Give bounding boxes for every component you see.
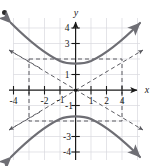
y-tick-label--3: -3 <box>63 132 71 142</box>
y-tick-label-1: 1 <box>65 70 70 80</box>
x-tick-label--1: -1 <box>57 95 65 105</box>
figure-container: -4 -2 -1 1 2 4 4 3 1 -1 -3 -4 x y <box>0 0 156 166</box>
x-axis-label: x <box>144 84 150 95</box>
x-tick-label-2: 2 <box>104 96 109 106</box>
y-tick-label-4: 4 <box>65 23 70 33</box>
x-tick-label-4: 4 <box>120 96 125 106</box>
x-tick-label-1: 1 <box>89 96 94 106</box>
hyperbola-graph: -4 -2 -1 1 2 4 4 3 1 -1 -3 -4 x y <box>0 0 156 166</box>
y-tick-label--1: -1 <box>65 101 73 111</box>
y-tick-label--4: -4 <box>63 147 71 157</box>
origin-point <box>74 88 78 92</box>
y-tick-label-3: 3 <box>65 39 70 49</box>
y-axis-label: y <box>73 7 79 18</box>
x-tick-label--4: -4 <box>10 96 18 106</box>
x-tick-label--2: -2 <box>41 96 49 106</box>
